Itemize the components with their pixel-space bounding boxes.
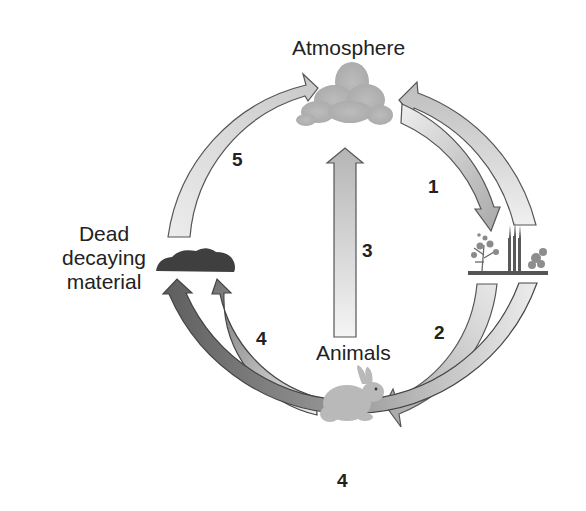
arrow-label-2: 2 bbox=[434, 322, 445, 344]
arrow-label-4-outer: 4 bbox=[337, 470, 348, 492]
arrow-label-1: 1 bbox=[428, 176, 439, 198]
arrow-5 bbox=[168, 74, 318, 237]
label-dead-line2: decaying bbox=[52, 246, 156, 270]
arrow-plants-to-atmosphere bbox=[399, 82, 536, 225]
plants-icon bbox=[468, 222, 548, 275]
rabbit-icon bbox=[320, 365, 384, 422]
arrow-3 bbox=[327, 148, 363, 337]
label-animals: Animals bbox=[316, 341, 391, 365]
arrow-label-5: 5 bbox=[232, 149, 243, 171]
label-atmosphere: Atmosphere bbox=[292, 36, 405, 60]
arrow-label-3: 3 bbox=[362, 240, 373, 262]
decaying-matter-icon bbox=[156, 248, 235, 272]
arrow-label-4-inner: 4 bbox=[256, 328, 267, 350]
label-dead-line3: material bbox=[52, 270, 156, 294]
label-dead-line1: Dead bbox=[52, 222, 156, 246]
label-dead-decaying-material: Dead decaying material bbox=[52, 222, 156, 294]
